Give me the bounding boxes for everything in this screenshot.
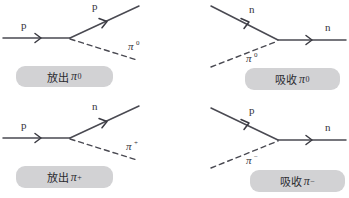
caption-charge-symbol: 0 [78, 72, 83, 81]
meson-dashed-line [70, 39, 137, 60]
outgoing-particle-label: n [325, 21, 331, 33]
meson-dashed-line [211, 41, 278, 67]
outgoing-particle-label: n [92, 100, 98, 112]
incoming-fermion-line [211, 6, 278, 40]
incoming-fermion-line [211, 108, 278, 140]
meson-label: π [126, 140, 132, 152]
incoming-particle-label: n [249, 3, 255, 15]
caption-absorb-pi-minus: 吸收π− [250, 170, 345, 192]
caption-charge-symbol: 0 [306, 75, 311, 84]
diagram-emit-pi-plus: p n π + [3, 100, 139, 160]
caption-text: 吸收 [280, 173, 303, 189]
meson-label: π [246, 154, 252, 166]
diagram-absorb-pi-minus: p n π − [211, 104, 346, 168]
meson-label: π [128, 40, 134, 52]
diagram-absorb-pi-zero: n n π 0 [211, 3, 346, 67]
caption-emit-pi-zero: 放出π0 [16, 66, 113, 87]
outgoing-fermion-line [70, 6, 139, 38]
incoming-particle-label: p [21, 119, 27, 131]
caption-text: 放出 [47, 69, 70, 85]
outgoing-particle-label: n [325, 121, 331, 133]
caption-text: 吸收 [275, 71, 298, 87]
meson-charge-label: − [254, 153, 258, 161]
incoming-particle-label: p [21, 19, 27, 31]
meson-charge-label: 0 [136, 39, 140, 47]
diagram-emit-pi-zero: p p π 0 [3, 0, 140, 60]
outgoing-particle-label: p [92, 0, 98, 12]
outgoing-fermion-line [70, 106, 139, 138]
caption-absorb-pi-zero: 吸收π0 [245, 68, 340, 90]
caption-charge-symbol: − [310, 177, 315, 186]
caption-charge-symbol: + [77, 173, 82, 182]
incoming-particle-label: p [249, 104, 255, 116]
feynman-diagram-figure: p p π 0 n n π 0 p n [0, 0, 349, 198]
caption-emit-pi-plus: 放出π+ [16, 166, 113, 188]
caption-text: 放出 [47, 169, 70, 185]
meson-charge-label: + [134, 139, 138, 147]
meson-label: π [246, 52, 252, 64]
meson-charge-label: 0 [254, 51, 258, 59]
meson-dashed-line [211, 141, 278, 168]
